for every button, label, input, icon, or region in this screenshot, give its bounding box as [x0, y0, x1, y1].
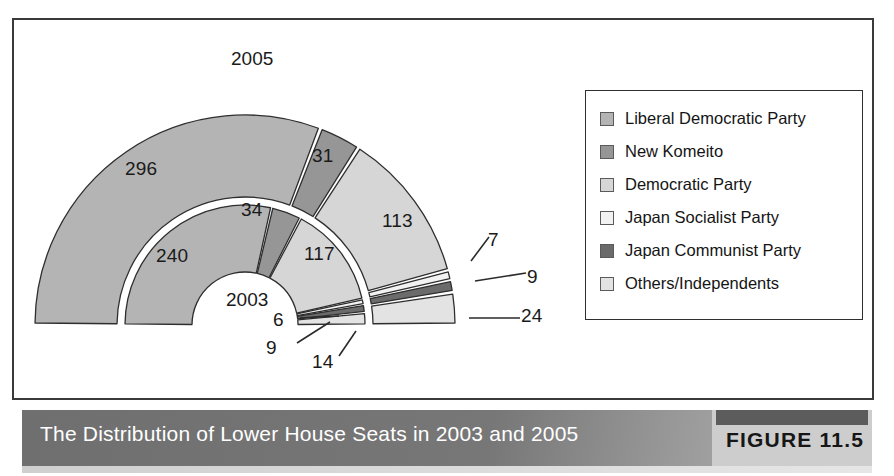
legend-item: Democratic Party	[600, 168, 862, 201]
figure-number-tab	[716, 410, 868, 425]
legend-item: Japan Communist Party	[600, 234, 862, 267]
outer-value-label: 24	[521, 305, 543, 327]
legend-label: Liberal Democratic Party	[625, 109, 806, 128]
legend-label: Japan Communist Party	[625, 241, 801, 260]
legend-item: Others/Independents	[600, 267, 862, 300]
figure-caption: The Distribution of Lower House Seats in…	[40, 422, 578, 446]
outer-value-label: 31	[312, 145, 334, 167]
outer-value-label: 9	[527, 266, 538, 288]
figure-number: FIGURE 11.5	[726, 428, 864, 452]
legend-swatch-icon	[600, 277, 614, 291]
inner-value-label: 6	[273, 309, 284, 331]
inner-value-label: 240	[156, 245, 188, 267]
legend-label: Democratic Party	[625, 175, 752, 194]
legend-label: Japan Socialist Party	[625, 208, 779, 227]
ring-year-label: 2005	[231, 48, 273, 70]
caption-bar-shadow	[22, 466, 872, 473]
outer-value-label: 7	[488, 229, 499, 251]
caption-bar: The Distribution of Lower House Seats in…	[0, 402, 894, 476]
legend-item: Liberal Democratic Party	[600, 102, 862, 135]
ring-year-label: 2003	[226, 289, 268, 311]
legend-item: New Komeito	[600, 135, 862, 168]
legend-item: Japan Socialist Party	[600, 201, 862, 234]
legend-swatch-icon	[600, 211, 614, 225]
legend: Liberal Democratic PartyNew KomeitoDemoc…	[585, 90, 863, 320]
inner-value-label: 34	[241, 199, 263, 221]
legend-swatch-icon	[600, 244, 614, 258]
legend-swatch-icon	[600, 145, 614, 159]
legend-swatch-icon	[600, 178, 614, 192]
figure-root: 29631113792424034117691420052003 Liberal…	[0, 0, 894, 476]
legend-swatch-icon	[600, 112, 614, 126]
outer-value-label: 296	[125, 158, 157, 180]
legend-label: Others/Independents	[625, 274, 779, 293]
inner-value-label: 14	[312, 351, 334, 373]
inner-value-label: 117	[304, 243, 335, 265]
outer-value-label: 113	[382, 210, 413, 232]
legend-label: New Komeito	[625, 142, 723, 161]
inner-value-label: 9	[266, 337, 277, 359]
